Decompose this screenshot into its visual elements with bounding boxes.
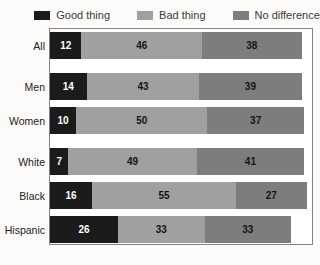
bar-segment-no-difference: 27 <box>236 182 307 209</box>
category-label: Women <box>9 115 45 127</box>
bad-thing-swatch-icon <box>137 11 153 20</box>
chart-row: All124638 <box>50 32 312 59</box>
value-label: 33 <box>242 224 253 235</box>
stacked-bar: 263333 <box>50 216 291 243</box>
value-label: 41 <box>245 156 256 167</box>
legend-item-good-thing: Good thing <box>34 9 110 21</box>
value-label: 46 <box>136 40 147 51</box>
bar-segment-bad-thing: 55 <box>92 182 236 209</box>
value-label: 16 <box>65 190 76 201</box>
chart-row: Men144339 <box>50 73 312 100</box>
bar-segment-no-difference: 39 <box>199 73 301 100</box>
value-label: 27 <box>266 190 277 201</box>
value-label: 33 <box>156 224 167 235</box>
stacked-bar: 74941 <box>50 148 304 175</box>
category-label: White <box>18 156 45 168</box>
legend-item-bad-thing: Bad thing <box>137 9 205 21</box>
stacked-bar: 165527 <box>50 182 307 209</box>
bar-segment-good-thing: 16 <box>50 182 92 209</box>
bar-segment-bad-thing: 33 <box>118 216 204 243</box>
bar-segment-bad-thing: 43 <box>87 73 200 100</box>
chart-row: Hispanic263333 <box>50 216 312 243</box>
category-label: All <box>33 40 45 52</box>
chart-row: Black165527 <box>50 182 312 209</box>
value-label: 43 <box>137 81 148 92</box>
bar-segment-good-thing: 7 <box>50 148 68 175</box>
bar-segment-good-thing: 10 <box>50 107 76 134</box>
legend-label: Good thing <box>56 9 110 21</box>
bar-segment-no-difference: 41 <box>197 148 304 175</box>
category-label: Black <box>19 190 45 202</box>
bar-segment-no-difference: 33 <box>205 216 291 243</box>
value-label: 26 <box>79 224 90 235</box>
value-label: 12 <box>60 40 71 51</box>
stacked-bar: 105037 <box>50 107 304 134</box>
bar-segment-bad-thing: 50 <box>76 107 207 134</box>
bar-segment-bad-thing: 49 <box>68 148 196 175</box>
category-label: Men <box>25 81 45 93</box>
no-difference-swatch-icon <box>233 11 249 20</box>
chart-row: White74941 <box>50 148 312 175</box>
value-label: 38 <box>246 40 257 51</box>
value-label: 14 <box>63 81 74 92</box>
legend: Good thing Bad thing No difference <box>0 0 320 21</box>
bar-segment-good-thing: 14 <box>50 73 87 100</box>
plot-area: All124638Men144339Women105037White74941B… <box>49 28 313 245</box>
chart-row: Women105037 <box>50 107 312 134</box>
bar-segment-no-difference: 37 <box>207 107 304 134</box>
bar-segment-good-thing: 26 <box>50 216 118 243</box>
stacked-bar: 124638 <box>50 32 302 59</box>
good-thing-swatch-icon <box>34 11 50 20</box>
value-label: 37 <box>250 115 261 126</box>
value-label: 55 <box>158 190 169 201</box>
value-label: 10 <box>58 115 69 126</box>
bar-segment-bad-thing: 46 <box>81 32 202 59</box>
legend-label: No difference <box>255 9 320 21</box>
legend-item-no-difference: No difference <box>233 9 320 21</box>
bar-segment-no-difference: 38 <box>202 32 302 59</box>
legend-label: Bad thing <box>159 9 205 21</box>
value-label: 50 <box>136 115 147 126</box>
stacked-bar: 144339 <box>50 73 302 100</box>
value-label: 39 <box>245 81 256 92</box>
value-label: 49 <box>127 156 138 167</box>
value-label: 7 <box>56 156 62 167</box>
category-label: Hispanic <box>5 224 45 236</box>
bar-segment-good-thing: 12 <box>50 32 81 59</box>
